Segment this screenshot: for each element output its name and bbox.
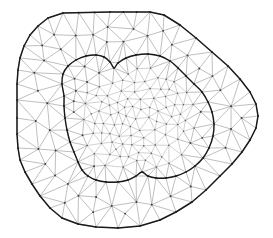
- mesh-node: [67, 183, 69, 185]
- mesh-node: [125, 115, 127, 117]
- mesh-node: [64, 202, 66, 204]
- mesh-node: [136, 201, 138, 203]
- mesh-node: [94, 123, 96, 125]
- mesh-node: [177, 124, 179, 126]
- mesh-node: [115, 148, 117, 150]
- mesh-node: [173, 81, 175, 83]
- mesh-node: [124, 106, 126, 108]
- mesh-node: [134, 91, 136, 93]
- mesh-node: [46, 102, 48, 104]
- mesh-node: [55, 150, 57, 152]
- mesh-node: [165, 96, 167, 98]
- mesh-node: [157, 110, 159, 112]
- mesh-node: [94, 153, 96, 155]
- mesh-node: [43, 60, 45, 62]
- mesh-node: [118, 136, 120, 138]
- mesh-node: [93, 133, 95, 135]
- mesh-node: [145, 159, 147, 161]
- mesh-node: [181, 154, 183, 156]
- mesh-node: [37, 90, 39, 92]
- mesh-node: [153, 98, 155, 100]
- mesh-node: [165, 107, 167, 109]
- mesh-node: [128, 73, 130, 75]
- mesh-node: [112, 82, 114, 84]
- mesh-node: [122, 79, 124, 81]
- mesh-node: [101, 101, 103, 103]
- mesh-node: [75, 35, 77, 37]
- mesh-node: [151, 204, 153, 206]
- mesh-node: [121, 90, 123, 92]
- mesh-node: [109, 133, 111, 135]
- mesh-node: [131, 144, 133, 146]
- mesh-node: [162, 30, 164, 32]
- mesh-node: [123, 41, 125, 43]
- mesh-node: [143, 137, 145, 139]
- mesh-edges-layer: [17, 12, 258, 228]
- mesh-node: [171, 116, 173, 118]
- mesh-node: [73, 100, 75, 102]
- mesh-node: [130, 126, 132, 128]
- mesh-node: [177, 138, 179, 140]
- mesh-node: [155, 144, 157, 146]
- mesh-node: [144, 81, 146, 83]
- mesh-node: [189, 142, 191, 144]
- mesh-node: [86, 81, 88, 83]
- mesh-node: [168, 145, 170, 147]
- mesh-node: [104, 165, 106, 167]
- mesh-node: [183, 104, 185, 106]
- mesh-nodes-layer: [16, 11, 259, 229]
- mesh-node: [86, 145, 88, 147]
- mesh-node: [156, 121, 158, 123]
- mesh-node: [98, 72, 100, 74]
- mesh-node: [157, 77, 159, 79]
- mesh-node: [139, 130, 141, 132]
- mesh-node: [117, 102, 119, 104]
- mesh-node: [95, 196, 97, 198]
- mesh-node: [133, 28, 135, 30]
- mesh-node: [200, 111, 202, 113]
- mesh-node: [166, 123, 168, 125]
- mesh-node: [124, 213, 126, 215]
- mesh-node: [190, 185, 192, 187]
- mesh-node: [230, 105, 232, 107]
- mesh-node: [143, 145, 145, 147]
- mesh-node: [86, 92, 88, 94]
- mesh-node: [44, 163, 46, 165]
- mesh-node: [183, 131, 185, 133]
- mesh-node: [83, 119, 85, 121]
- mesh-node: [156, 166, 158, 168]
- mesh-node: [92, 34, 94, 36]
- mesh-node: [122, 143, 124, 145]
- mesh-node: [148, 117, 150, 119]
- mesh-node: [198, 67, 200, 69]
- mesh-node: [136, 160, 138, 162]
- mesh-node: [111, 205, 113, 207]
- mesh-node: [93, 165, 95, 167]
- mesh-node: [92, 211, 94, 213]
- mesh-node: [127, 98, 129, 100]
- mesh-node: [109, 104, 111, 106]
- mesh-node: [91, 113, 93, 115]
- mesh-node: [241, 117, 243, 119]
- mesh-node: [170, 195, 172, 197]
- mesh-node: [136, 68, 138, 70]
- mesh-node: [149, 107, 151, 109]
- mesh-figure: [0, 0, 273, 238]
- mesh-node: [53, 34, 55, 36]
- mesh-node: [140, 99, 142, 101]
- mesh-node: [193, 127, 195, 129]
- mesh-node: [212, 75, 214, 77]
- mesh-node: [140, 109, 142, 111]
- mesh-edges-coarse: [17, 12, 258, 228]
- mesh-node: [174, 104, 176, 106]
- mesh-node: [111, 141, 113, 143]
- mesh-node: [134, 82, 136, 84]
- mesh-node: [98, 110, 100, 112]
- mesh-node: [165, 79, 167, 81]
- mesh-node: [150, 67, 152, 69]
- mesh-node: [154, 129, 156, 131]
- mesh-node: [135, 118, 137, 120]
- mesh-node: [60, 48, 62, 50]
- mesh-node: [192, 104, 194, 106]
- mesh-node: [82, 134, 84, 136]
